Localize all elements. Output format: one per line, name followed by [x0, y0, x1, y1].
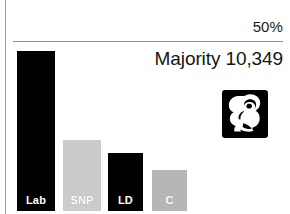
bar-label-lab: Lab: [17, 192, 55, 208]
bar-c: C: [152, 170, 187, 211]
bar-lab: Lab: [17, 51, 55, 211]
bar-label-ld: LD: [108, 192, 143, 208]
bar-label-snp: SNP: [63, 192, 101, 208]
election-bar-chart: 50% Majority 10,349 Lab SNP LD C: [0, 0, 290, 214]
labour-rose-icon: [222, 90, 268, 138]
bar-snp: SNP: [63, 140, 101, 211]
bar-label-c: C: [152, 192, 187, 208]
bar-ld: LD: [108, 153, 143, 211]
